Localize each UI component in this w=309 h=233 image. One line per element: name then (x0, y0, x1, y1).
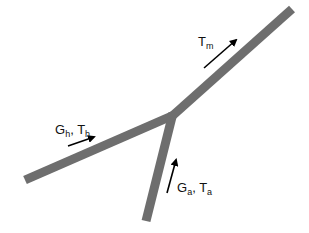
label-main: T (198, 34, 206, 49)
label-main: G (177, 180, 187, 195)
label-main: G (55, 122, 65, 137)
pipe-network (0, 0, 309, 233)
outlet-temperature-label: Tm (198, 35, 213, 51)
label-sub: m (206, 41, 214, 51)
air-stream-label: Ga, Ta (177, 181, 212, 197)
pipe-junction-diagram: Tm Gh, Th Ga, Ta (0, 0, 309, 233)
pipe-hot-inlet (25, 115, 174, 180)
label-main: T (77, 122, 85, 137)
air-flow-arrow-icon (167, 160, 176, 193)
label-sub: a (207, 187, 212, 197)
label-main: T (199, 180, 207, 195)
label-sub: h (85, 129, 90, 139)
hot-stream-label: Gh, Th (55, 123, 90, 139)
pipe-mixed-outlet (170, 9, 292, 118)
